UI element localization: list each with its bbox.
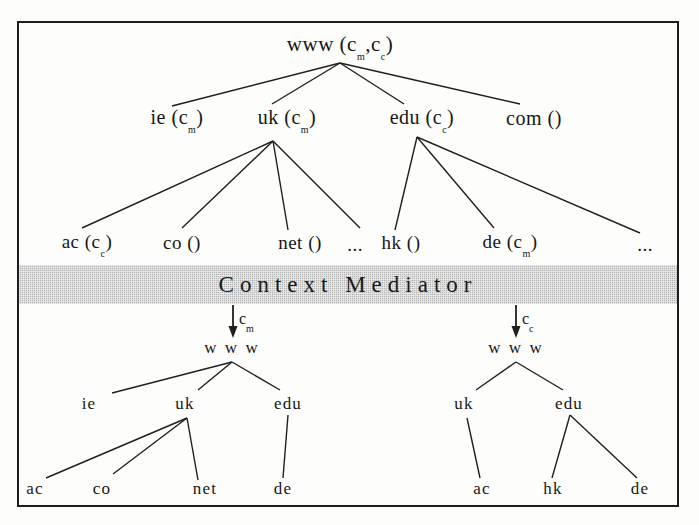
- top-node-ie-base: ie: [151, 106, 166, 128]
- top-node-edu-sub: c: [442, 124, 447, 135]
- top-node-uk-close-paren: ): [309, 106, 316, 128]
- right-tree-node-de: de: [631, 479, 649, 499]
- left-arrow-context-label: cm: [239, 310, 254, 330]
- right-tree-node-edu: edu: [555, 394, 583, 414]
- top-node-uk-ctx: c: [291, 106, 300, 128]
- top-node-de-ctx: c: [513, 231, 522, 252]
- top-node-ac-ctx: c: [92, 231, 101, 252]
- top-node-edu: edu (cc): [390, 106, 455, 131]
- top-node-co-close-paren: ): [194, 232, 201, 253]
- top-node-hk: hk (): [382, 232, 421, 254]
- left-tree-node-uk: uk: [175, 394, 194, 414]
- top-node-hk-close-paren: ): [414, 232, 421, 253]
- right-arrow-sub: c: [529, 323, 533, 334]
- top-node-ac-sub: c: [101, 248, 106, 259]
- left-arrow-sub: m: [246, 323, 254, 334]
- top-node-net-open-paren: (: [308, 232, 315, 253]
- top-node-edu-open-paren: (: [426, 106, 433, 128]
- top-node-com-base: com: [506, 107, 542, 129]
- top-ellipsis-after-de: ...: [637, 234, 653, 256]
- top-node-ie-sub: m: [188, 124, 196, 135]
- top-node-edu-base: edu: [390, 106, 420, 128]
- top-node-uk-sub: m: [301, 124, 309, 135]
- right-arrow-context-label: cc: [522, 310, 534, 330]
- right-tree-node-ac: ac: [473, 479, 491, 499]
- top-root-close-paren: ): [386, 32, 394, 56]
- top-node-de-open-paren: (: [507, 231, 514, 252]
- top-node-ie-close-paren: ): [196, 106, 203, 128]
- top-node-co-open-paren: (: [187, 232, 194, 253]
- top-node-ac-close-paren: ): [106, 231, 113, 252]
- right-tree-root: w w w: [488, 338, 543, 358]
- top-node-com-close-paren: ): [555, 107, 562, 129]
- left-tree-node-edu: edu: [274, 394, 302, 414]
- top-node-net: net (): [278, 232, 322, 254]
- top-node-edu-close-paren: ): [447, 106, 454, 128]
- left-tree-root: w w w: [204, 338, 259, 358]
- top-node-de-base: de: [482, 231, 501, 252]
- top-node-hk-base: hk: [382, 232, 402, 253]
- top-node-co: co (): [163, 232, 201, 254]
- top-ellipsis-after-net: ...: [347, 234, 363, 256]
- context-mediator-band: Context Mediator: [19, 265, 677, 304]
- top-root-node: www (cm,cc): [287, 32, 393, 58]
- top-node-ac-base: ac: [62, 231, 80, 252]
- top-root-base: www: [287, 32, 334, 56]
- top-node-co-base: co: [163, 232, 182, 253]
- top-node-de-sub: m: [522, 248, 530, 259]
- top-node-ac: ac (cc): [62, 231, 113, 255]
- top-node-net-base: net: [278, 232, 303, 253]
- top-node-net-close-paren: ): [315, 232, 322, 253]
- left-tree-node-ie: ie: [82, 394, 97, 414]
- figure-frame: [17, 21, 679, 507]
- top-root-ctx1: c: [347, 32, 357, 56]
- top-root-sub2: c: [381, 51, 386, 62]
- top-node-uk: uk (cm): [258, 106, 317, 131]
- top-node-com-open-paren: (: [548, 107, 555, 129]
- top-node-de-close-paren: ): [531, 231, 538, 252]
- top-node-com: com (): [506, 107, 562, 130]
- left-tree-node-net: net: [193, 479, 217, 499]
- top-node-uk-base: uk: [258, 106, 279, 128]
- top-node-ie-ctx: c: [179, 106, 188, 128]
- top-node-ac-open-paren: (: [85, 231, 92, 252]
- left-tree-node-ac: ac: [26, 479, 44, 499]
- top-root-ctx2: c: [371, 32, 381, 56]
- context-mediator-label: Context Mediator: [219, 272, 478, 298]
- left-tree-node-co: co: [93, 479, 111, 499]
- top-root-sub1: m: [357, 51, 365, 62]
- left-tree-node-de: de: [274, 479, 292, 499]
- top-node-ie: ie (cm): [151, 106, 204, 131]
- right-tree-node-uk: uk: [454, 394, 473, 414]
- top-node-de: de (cm): [482, 231, 537, 255]
- figure-canvas: www (cm,cc) ie (cm) uk (cm) edu (cc) com…: [0, 0, 699, 525]
- top-node-uk-open-paren: (: [284, 106, 291, 128]
- right-tree-node-hk: hk: [543, 479, 562, 499]
